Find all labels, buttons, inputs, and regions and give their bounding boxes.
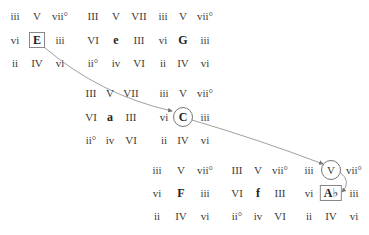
chord-numeral: vi [160, 111, 169, 123]
key-modulation-diagram: iiiVvii°viEiiiiiIVviIIIVVIIVIeIIIii°ivVI… [0, 0, 369, 235]
chord-numeral: VI [133, 57, 145, 69]
chord-numeral: IV [177, 134, 189, 146]
chord-numeral: vii° [272, 164, 288, 176]
chord-numeral: vii° [197, 10, 213, 22]
chord-numeral: III [126, 111, 137, 123]
chord-numeral: V [254, 164, 262, 176]
chord-numeral: ii [160, 57, 166, 69]
chord-numeral: vi [11, 34, 20, 46]
chord-numeral: vii° [346, 164, 362, 176]
chord-numeral: ii° [88, 57, 99, 69]
key-tonic-3: a [107, 111, 113, 123]
arrow-c-to-v [192, 120, 323, 164]
chord-numeral: iii [55, 34, 64, 46]
key-tonic-1: e [113, 34, 118, 46]
chord-numeral: ii° [232, 210, 243, 222]
chord-numeral: vi [201, 57, 210, 69]
chord-numeral: vi [201, 134, 210, 146]
chord-numeral: VI [87, 34, 99, 46]
chord-numeral: ii [306, 210, 312, 222]
chord-numeral: V [179, 87, 187, 99]
chord-numeral: iv [254, 210, 263, 222]
chord-numeral: vi [305, 187, 314, 199]
chord-numeral: vi [350, 210, 359, 222]
chord-numeral: vi [56, 57, 65, 69]
chord-numeral: ii° [86, 134, 97, 146]
chord-numeral: vii° [52, 10, 68, 22]
chord-numeral: iii [200, 111, 209, 123]
chord-numeral: vii° [197, 164, 213, 176]
chord-numeral: III [232, 164, 243, 176]
chord-numeral: iii [349, 187, 358, 199]
chord-numeral: V [321, 160, 341, 180]
chord-numeral: iii [304, 164, 313, 176]
chord-numeral: iii [158, 10, 167, 22]
chord-numeral: V [112, 10, 120, 22]
chord-numeral: VII [131, 10, 146, 22]
chord-numeral: V [179, 10, 187, 22]
chord-numeral: ii [161, 134, 167, 146]
chord-numeral: iii [159, 87, 168, 99]
chord-numeral: V [33, 10, 41, 22]
chord-numeral: VII [123, 87, 138, 99]
key-tonic-7: A♭ [320, 185, 342, 201]
chord-numeral: ii [154, 210, 160, 222]
chord-numeral: IV [31, 57, 43, 69]
chord-numeral: V [177, 164, 185, 176]
chord-numeral: iv [106, 134, 115, 146]
chord-numeral: iii [152, 164, 161, 176]
chord-numeral: vii° [197, 87, 213, 99]
chord-numeral: VI [125, 134, 137, 146]
chord-numeral: VI [231, 187, 243, 199]
key-tonic-4: C [173, 107, 193, 127]
chord-numeral: iii [200, 34, 209, 46]
chord-numeral: VI [85, 111, 97, 123]
key-tonic-6: f [256, 187, 260, 199]
chord-numeral: III [86, 87, 97, 99]
chord-numeral: iv [112, 57, 121, 69]
chord-numeral: vi [153, 187, 162, 199]
chord-numeral: VI [274, 210, 286, 222]
key-tonic-2: G [178, 34, 187, 46]
chord-numeral: V [106, 87, 114, 99]
chord-numeral: vi [201, 210, 210, 222]
chord-numeral: IV [177, 57, 189, 69]
key-tonic-0: E [29, 32, 45, 48]
key-tonic-5: F [177, 187, 184, 199]
chord-numeral: iii [200, 187, 209, 199]
chord-numeral: III [134, 34, 145, 46]
chord-numeral: III [275, 187, 286, 199]
chord-numeral: IV [325, 210, 337, 222]
chord-numeral: III [88, 10, 99, 22]
chord-numeral: ii [12, 57, 18, 69]
chord-numeral: vi [159, 34, 168, 46]
chord-numeral: iii [10, 10, 19, 22]
chord-numeral: IV [175, 210, 187, 222]
